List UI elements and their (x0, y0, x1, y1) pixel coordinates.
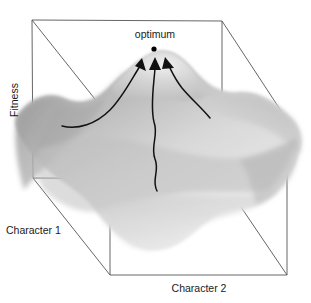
optimum-label: optimum (135, 28, 176, 40)
axis-label-character-1: Character 1 (6, 224, 61, 236)
fitness-surface (15, 51, 301, 251)
optimum-dot-icon (151, 46, 156, 51)
fitness-landscape-figure: optimum Fitness Character 1 Character 2 (0, 0, 311, 303)
axis-label-fitness: Fitness (8, 83, 20, 117)
landscape-diagram: optimum Fitness Character 1 Character 2 (0, 0, 311, 303)
axis-label-character-2: Character 2 (172, 282, 227, 294)
